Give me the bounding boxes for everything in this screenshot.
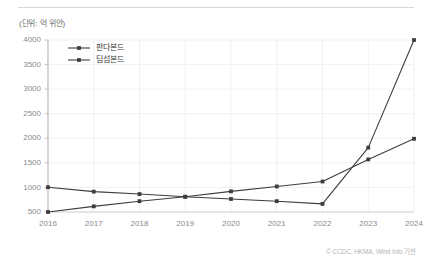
legend-marker-2 [77, 58, 81, 62]
ytick-label: 2000 [23, 133, 41, 142]
xtick-label: 2021 [268, 219, 286, 228]
data-point-marker [412, 38, 416, 42]
xtick-label: 2019 [176, 219, 194, 228]
ytick-label: 4000 [23, 35, 41, 44]
data-point-marker [321, 202, 325, 206]
xtick-label: 2024 [405, 219, 423, 228]
xtick-label: 2022 [314, 219, 332, 228]
data-point-marker [92, 204, 96, 208]
xtick-label: 2016 [39, 219, 57, 228]
data-point-marker [46, 210, 50, 214]
legend-label-2: 딤섬본드 [96, 54, 124, 64]
data-point-marker [46, 185, 50, 189]
data-point-marker [366, 146, 370, 150]
ytick-label: 2500 [23, 109, 41, 118]
data-point-marker [138, 192, 142, 196]
data-point-marker [275, 199, 279, 203]
data-point-marker [275, 185, 279, 189]
data-point-marker [366, 158, 370, 162]
ytick-label: 3500 [23, 60, 41, 69]
chart-figure: (단위: 억 위안) 50010001500200025003000350040… [0, 0, 429, 264]
ytick-label: 3000 [23, 84, 41, 93]
data-point-marker [321, 180, 325, 184]
ytick-label: 500 [28, 207, 42, 216]
line-chart-plot: 5001000150020002500300035004000201620172… [0, 0, 429, 264]
ytick-label: 1000 [23, 183, 41, 192]
xtick-label: 2023 [359, 219, 377, 228]
legend-label-1: 판다본드 [96, 43, 124, 52]
data-point-marker [229, 197, 233, 201]
xtick-label: 2017 [85, 219, 103, 228]
data-point-marker [229, 189, 233, 193]
xtick-label: 2020 [222, 219, 240, 228]
data-point-marker [92, 190, 96, 194]
legend-marker-1 [77, 46, 81, 50]
data-point-marker [183, 195, 187, 199]
source-credit: © CCDC, HKMA, Wind Info 기반 [326, 246, 416, 256]
data-point-marker [138, 199, 142, 203]
xtick-label: 2018 [131, 219, 149, 228]
data-point-marker [412, 137, 416, 141]
ytick-label: 1500 [23, 158, 41, 167]
